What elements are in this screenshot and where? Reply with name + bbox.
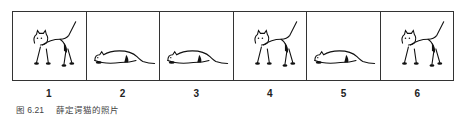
cat-crouching-icon	[87, 12, 160, 80]
panel-number: 1	[12, 88, 86, 99]
figure-caption: 图 6.21薛定谔猫的照片	[16, 103, 119, 115]
panel-number: 4	[233, 88, 307, 99]
cat-crouching-icon	[307, 12, 380, 80]
cat-photo-panel	[307, 12, 381, 80]
panel-number: 3	[159, 88, 233, 99]
panel-labels: 123456	[12, 88, 454, 99]
cat-standing-icon	[234, 12, 307, 80]
cat-photo-panel	[13, 12, 87, 80]
panel-number: 2	[86, 88, 160, 99]
caption-number: 图 6.21	[16, 105, 44, 115]
cat-crouching-icon	[160, 12, 233, 80]
cat-photo-panel	[160, 12, 234, 80]
caption-text: 薛定谔猫的照片	[56, 105, 119, 115]
photo-strip	[12, 11, 454, 81]
panel-number: 5	[307, 88, 381, 99]
cat-photo-panel	[381, 12, 454, 80]
cat-photo-panel	[234, 12, 308, 80]
cat-photo-panel	[87, 12, 161, 80]
cat-standing-icon	[13, 12, 86, 80]
panel-number: 6	[380, 88, 454, 99]
cat-standing-icon	[381, 12, 454, 80]
